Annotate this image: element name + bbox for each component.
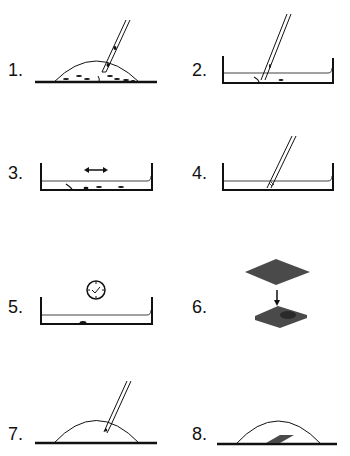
sample-block: [255, 306, 307, 328]
step-2-dish: [223, 56, 333, 83]
pipette-icon: [267, 136, 296, 188]
down-arrow-head: [274, 300, 280, 306]
protocol-diagram: [0, 0, 350, 456]
step-8-droplet: [217, 421, 337, 444]
step-3-dish: [41, 163, 152, 190]
double-arrow-icon: [84, 167, 108, 173]
pipette-icon: [104, 381, 131, 433]
step-6-grid-transfer: [245, 259, 310, 328]
pipette-icon: [261, 14, 291, 80]
clock-icon: [87, 281, 105, 299]
step-4-dish: [223, 163, 333, 190]
pipette-icon: [102, 20, 130, 72]
step-1-droplet: [35, 61, 157, 82]
step-5-dish: [41, 297, 152, 325]
grid-sheet: [266, 435, 294, 443]
step-7-droplet: [35, 421, 157, 444]
grid-sheet: [245, 259, 310, 285]
